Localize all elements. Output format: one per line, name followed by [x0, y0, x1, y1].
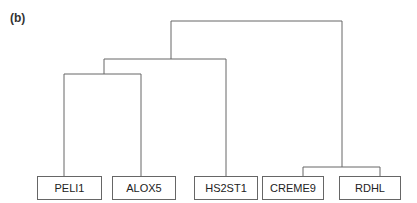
branch-peli1-alox5 — [64, 74, 141, 176]
leaf-label: RDHL — [355, 182, 385, 194]
leaf-rdhl: RDHL — [339, 176, 401, 200]
leaf-alox5: ALOX5 — [112, 176, 176, 200]
leaf-label: HS2ST1 — [205, 182, 247, 194]
branch-root — [171, 21, 342, 167]
leaf-hs2st1: HS2ST1 — [194, 176, 258, 200]
leaf-peli1: PELI1 — [37, 176, 102, 200]
branch-left-cluster — [104, 59, 226, 176]
branch-creme9-rdhl — [303, 167, 380, 176]
leaf-label: ALOX5 — [126, 182, 161, 194]
leaf-creme9: CREME9 — [262, 176, 324, 200]
dendrogram-branches — [0, 0, 417, 203]
leaf-label: PELI1 — [55, 182, 85, 194]
leaf-label: CREME9 — [270, 182, 316, 194]
